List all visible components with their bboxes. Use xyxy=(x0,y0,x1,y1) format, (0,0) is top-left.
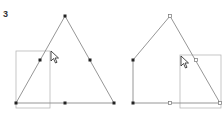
hollow-vertex-node[interactable] xyxy=(169,15,172,18)
vertex-node[interactable] xyxy=(64,15,67,18)
vertex-node[interactable] xyxy=(15,102,18,105)
arrow-cursor-icon xyxy=(51,51,59,63)
diagram-canvas xyxy=(0,0,224,117)
left-figure xyxy=(15,15,116,109)
right-figure xyxy=(132,15,222,109)
hollow-vertex-node[interactable] xyxy=(219,102,222,105)
vertex-node[interactable] xyxy=(132,59,135,62)
vertex-node[interactable] xyxy=(113,102,116,105)
midpoint-node[interactable] xyxy=(89,59,92,62)
left-selection-rect[interactable] xyxy=(16,51,50,108)
right-shape-outline[interactable] xyxy=(133,16,220,103)
midpoint-node[interactable] xyxy=(39,59,42,62)
midpoint-node[interactable] xyxy=(64,102,67,105)
vertex-node[interactable] xyxy=(132,102,135,105)
left-triangle[interactable] xyxy=(16,16,114,103)
hollow-midpoint-node[interactable] xyxy=(169,102,172,105)
hollow-midpoint-node[interactable] xyxy=(195,59,198,62)
arrow-cursor-icon xyxy=(181,56,189,68)
